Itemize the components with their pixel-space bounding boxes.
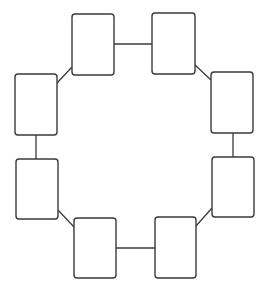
node-bottom-right[interactable]: [155, 217, 196, 278]
node-top-right[interactable]: [152, 13, 195, 74]
node-left-upper[interactable]: [15, 74, 57, 135]
node-box[interactable]: [211, 72, 253, 133]
nodes-layer: [15, 13, 254, 278]
connector-n8-n1: [57, 67, 72, 83]
node-bottom-left[interactable]: [74, 218, 116, 278]
node-box[interactable]: [152, 13, 195, 74]
node-top-left[interactable]: [72, 14, 114, 75]
connector-n6-n7: [58, 210, 74, 227]
connector-n2-n3: [195, 65, 211, 80]
node-box[interactable]: [212, 157, 254, 217]
node-left-lower[interactable]: [16, 159, 58, 219]
node-box[interactable]: [155, 217, 196, 278]
connector-n4-n5: [196, 208, 212, 226]
node-right-upper[interactable]: [211, 72, 253, 133]
node-box[interactable]: [72, 14, 114, 75]
node-box[interactable]: [16, 159, 58, 219]
diagram-canvas: [0, 0, 268, 296]
ring-diagram: [0, 0, 268, 296]
node-box[interactable]: [74, 218, 116, 278]
node-right-lower[interactable]: [212, 157, 254, 217]
node-box[interactable]: [15, 74, 57, 135]
edges-layer: [36, 44, 233, 248]
